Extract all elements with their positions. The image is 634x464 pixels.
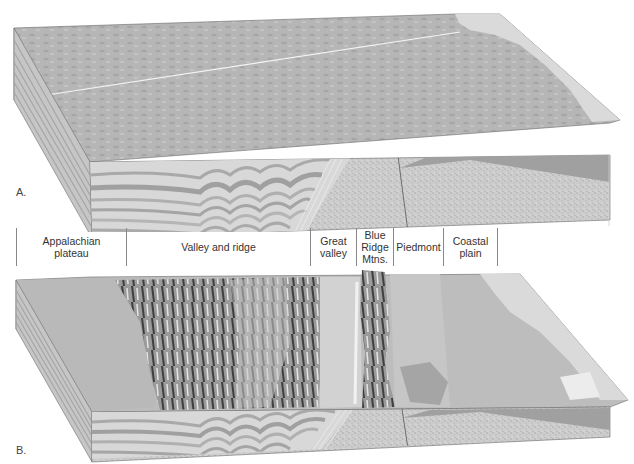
block-diagram-a (0, 0, 634, 232)
surface-a (14, 14, 620, 162)
block-diagram-b (0, 222, 634, 464)
panel-a: A. (0, 0, 634, 232)
panel-label-a: A. (16, 186, 26, 198)
panel-label-b: B. (16, 444, 26, 456)
panel-b: Appalachianplateau Valley and ridge Grea… (0, 222, 634, 464)
